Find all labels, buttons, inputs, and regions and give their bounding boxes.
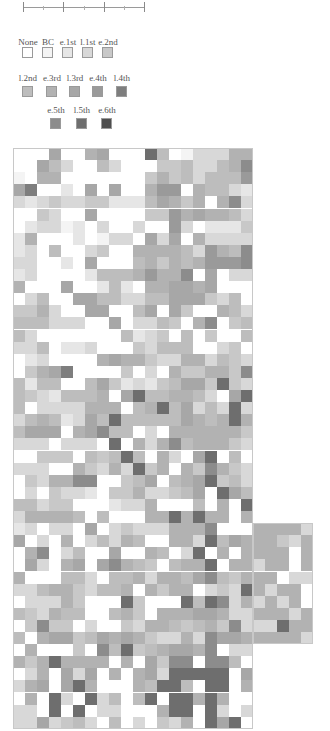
grid-cell bbox=[73, 511, 85, 523]
grid-cell bbox=[85, 390, 97, 402]
legend-label: l.5th bbox=[74, 105, 90, 115]
grid-cell bbox=[181, 487, 193, 499]
grid-cell bbox=[97, 390, 109, 402]
grid-cell bbox=[241, 487, 253, 499]
grid-cell bbox=[229, 390, 241, 402]
grid-cell bbox=[121, 354, 133, 366]
grid-cell bbox=[25, 596, 37, 608]
grid-cell bbox=[205, 644, 217, 656]
grid-cell bbox=[181, 475, 193, 487]
grid-cell bbox=[157, 209, 169, 221]
grid-cell bbox=[13, 184, 25, 196]
grid-cell bbox=[241, 426, 253, 438]
grid-cell bbox=[97, 463, 109, 475]
grid-cell bbox=[217, 426, 229, 438]
grid-cell bbox=[169, 233, 181, 245]
grid-cell bbox=[73, 426, 85, 438]
grid-cell bbox=[109, 354, 121, 366]
grid-cell bbox=[157, 293, 169, 305]
grid-cell bbox=[109, 717, 121, 729]
grid-cell bbox=[121, 632, 133, 644]
grid-cell bbox=[217, 305, 229, 317]
grid-cell bbox=[157, 378, 169, 390]
grid-cell bbox=[133, 717, 145, 729]
grid-cell bbox=[157, 620, 169, 632]
grid-cell bbox=[73, 656, 85, 668]
grid-cell bbox=[205, 390, 217, 402]
grid-cell bbox=[229, 196, 241, 208]
grid-cell bbox=[13, 523, 25, 535]
legend-swatch bbox=[116, 86, 127, 97]
grid-cell bbox=[169, 196, 181, 208]
grid-cell bbox=[301, 572, 313, 584]
grid-cell bbox=[229, 656, 241, 668]
grid-cell bbox=[85, 656, 97, 668]
grid-cell bbox=[205, 414, 217, 426]
grid-cell bbox=[217, 620, 229, 632]
grid-cell bbox=[49, 209, 61, 221]
grid-cell bbox=[181, 366, 193, 378]
grid-cell bbox=[205, 184, 217, 196]
grid-cell bbox=[241, 221, 253, 233]
grid-cell bbox=[229, 572, 241, 584]
legend-swatch bbox=[22, 47, 33, 58]
grid-cell bbox=[97, 293, 109, 305]
grid-cell bbox=[85, 535, 97, 547]
grid-cell bbox=[37, 547, 49, 559]
grid-cell bbox=[121, 499, 133, 511]
grid-cell bbox=[229, 535, 241, 547]
grid-cell bbox=[181, 330, 193, 342]
grid-cell bbox=[193, 608, 205, 620]
grid-cell bbox=[121, 463, 133, 475]
grid-cell bbox=[229, 209, 241, 221]
grid-cell bbox=[25, 305, 37, 317]
grid-cell bbox=[133, 463, 145, 475]
grid-cell bbox=[181, 693, 193, 705]
grid-cell bbox=[121, 523, 133, 535]
grid-cell bbox=[133, 632, 145, 644]
grid-cell bbox=[61, 438, 73, 450]
legend-swatch bbox=[92, 86, 103, 97]
grid-cell bbox=[109, 402, 121, 414]
grid-cell bbox=[181, 257, 193, 269]
grid-cell bbox=[121, 656, 133, 668]
grid-cell bbox=[205, 463, 217, 475]
grid-cell bbox=[49, 172, 61, 184]
grid-cell bbox=[265, 535, 277, 547]
grid-cell bbox=[157, 281, 169, 293]
grid-cell bbox=[193, 426, 205, 438]
grid-cell bbox=[169, 378, 181, 390]
grid-cell bbox=[169, 644, 181, 656]
grid-cell bbox=[97, 378, 109, 390]
grid-cell bbox=[205, 233, 217, 245]
grid-cell bbox=[97, 451, 109, 463]
grid-cell bbox=[181, 717, 193, 729]
grid-cell bbox=[169, 221, 181, 233]
grid-cell bbox=[25, 668, 37, 680]
grid-cell bbox=[157, 317, 169, 329]
grid-cell bbox=[217, 584, 229, 596]
grid-cell bbox=[13, 608, 25, 620]
grid-cell bbox=[229, 451, 241, 463]
grid-cell bbox=[73, 390, 85, 402]
grid-cell bbox=[241, 196, 253, 208]
grid-cell bbox=[181, 293, 193, 305]
grid-cell bbox=[193, 378, 205, 390]
grid-cell bbox=[217, 487, 229, 499]
grid-cell bbox=[181, 535, 193, 547]
legend-swatch bbox=[50, 118, 61, 129]
grid-cell bbox=[97, 148, 109, 160]
grid-cell bbox=[85, 572, 97, 584]
grid-cell bbox=[13, 281, 25, 293]
grid-cell bbox=[73, 559, 85, 571]
grid-cell bbox=[145, 499, 157, 511]
grid-cell bbox=[157, 257, 169, 269]
grid-cell bbox=[289, 535, 301, 547]
grid-cell bbox=[145, 523, 157, 535]
grid-cell bbox=[37, 451, 49, 463]
grid-cell bbox=[13, 438, 25, 450]
grid-cell bbox=[133, 475, 145, 487]
legend-label: BC bbox=[42, 37, 54, 47]
grid-cell bbox=[181, 438, 193, 450]
grid-cell bbox=[169, 184, 181, 196]
